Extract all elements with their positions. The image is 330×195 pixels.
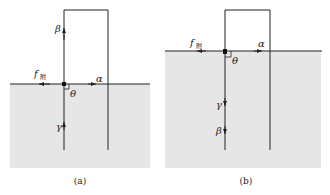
liquid-region <box>165 51 321 168</box>
liquid-region <box>10 84 150 168</box>
label-alpha: α <box>258 38 265 49</box>
contact-point <box>223 49 227 54</box>
label-f-sub: 附 <box>40 73 46 81</box>
caption-a: (a) <box>74 176 86 186</box>
label-alpha: α <box>96 73 103 84</box>
label-gamma: γ <box>216 99 222 110</box>
panel-b: f 附 α θ γ β (b) <box>165 10 322 186</box>
label-beta: β <box>215 125 222 136</box>
caption-b: (b) <box>240 176 253 186</box>
panel-a: β f 附 α θ γ (a) <box>10 10 150 186</box>
label-f: f <box>33 68 40 79</box>
label-f-sub: 附 <box>196 42 202 50</box>
label-f: f <box>189 37 196 48</box>
label-beta: β <box>54 23 61 34</box>
label-gamma: γ <box>56 121 62 132</box>
label-theta: θ <box>232 55 238 66</box>
contact-point <box>62 82 66 86</box>
label-theta: θ <box>70 88 76 99</box>
